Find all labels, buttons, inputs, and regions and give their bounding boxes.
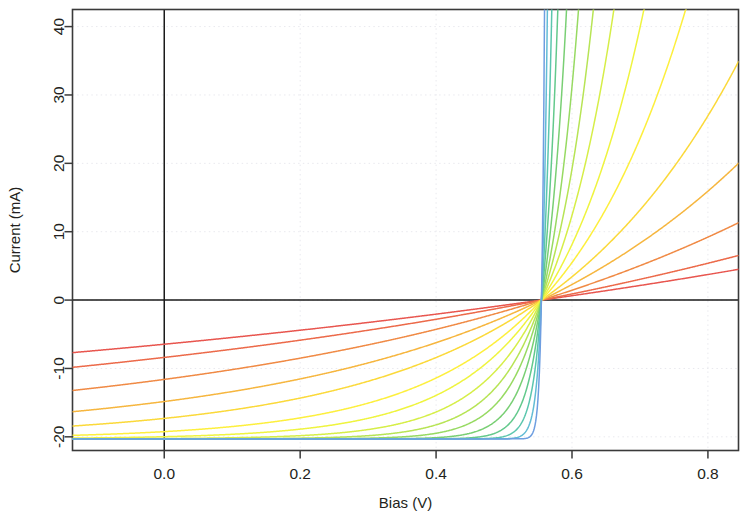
y-tick-label: 30 [50, 86, 67, 104]
y-axis-title: Current (mA) [6, 187, 23, 274]
iv-curve-chart: 0.00.20.40.60.8 -20-10010203040 Bias (V)… [0, 0, 741, 525]
x-tick-label: 0.8 [697, 465, 719, 482]
figure-root: 0.00.20.40.60.8 -20-10010203040 Bias (V)… [0, 0, 741, 525]
x-axis-title: Bias (V) [379, 494, 432, 511]
chart-canvas: 0.00.20.40.60.8 -20-10010203040 Bias (V)… [0, 0, 741, 525]
x-tick-label: 0.4 [425, 465, 447, 482]
x-tick-label: 0.0 [153, 465, 175, 482]
x-tick-label: 0.2 [289, 465, 311, 482]
y-tick-label: -20 [50, 425, 67, 448]
y-tick-label: 10 [50, 223, 67, 241]
y-tick-label: 40 [50, 18, 67, 36]
x-tick-label: 0.6 [561, 465, 583, 482]
y-tick-label: 0 [50, 295, 67, 304]
y-tick-label: 20 [50, 154, 67, 172]
chart-background [0, 0, 741, 525]
y-tick-label: -10 [50, 357, 67, 380]
